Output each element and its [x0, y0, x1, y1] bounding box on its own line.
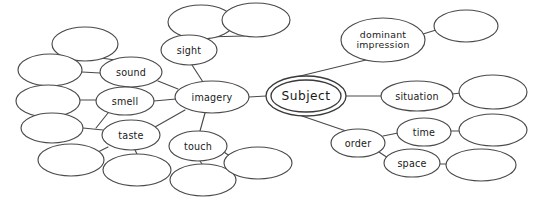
blank-node-ellipse[interactable] [224, 147, 292, 179]
node-touch[interactable]: touch [169, 131, 227, 161]
node-label-smell: smell [112, 96, 139, 107]
node-space[interactable]: space [384, 149, 440, 177]
connector-taste-to-blank-taste-1 [83, 128, 103, 130]
node-label-dominant_impression: dominantimpression [356, 28, 409, 50]
blank-node-ellipse[interactable] [459, 75, 527, 109]
node-label-imagery: imagery [192, 92, 233, 103]
connector-subject-to-imagery [249, 96, 266, 97]
blank-node-ellipse[interactable] [222, 3, 290, 37]
node-smell[interactable]: smell [96, 87, 154, 115]
node-label-order: order [345, 138, 372, 149]
node-label-line-1: dominant [360, 28, 406, 39]
connector-dominant_impression-to-blank-di-1 [423, 30, 436, 34]
connector-imagery-to-touch [200, 113, 205, 131]
node-sight[interactable]: sight [161, 35, 217, 65]
node-imagery[interactable]: imagery [175, 81, 249, 113]
node-label-touch: touch [184, 141, 212, 152]
blank-node-ellipse[interactable] [103, 154, 171, 186]
blank-node-ellipse[interactable] [16, 85, 80, 117]
node-time[interactable]: time [397, 118, 451, 146]
node-dominant_impression[interactable]: dominantimpression [341, 18, 425, 62]
blank-node-ellipse[interactable] [434, 10, 498, 42]
connector-smell-to-taste [96, 113, 108, 128]
node-label-sound: sound [116, 67, 146, 78]
connector-order-to-time [383, 133, 398, 136]
blank-node-ellipse[interactable] [18, 54, 82, 86]
node-label-taste: taste [118, 130, 143, 141]
blank-node-ellipse[interactable] [38, 144, 104, 176]
connector-taste-to-blank-taste-3 [135, 150, 137, 154]
connector-imagery-to-smell [154, 99, 176, 101]
node-label-sight: sight [177, 45, 202, 56]
node-label-time: time [413, 127, 435, 138]
center-node-label: Subject [281, 89, 330, 103]
connector-sound-to-blank-sound-2 [82, 72, 100, 73]
connector-imagery-to-sound [158, 81, 178, 89]
node-label-situation: situation [395, 91, 439, 102]
node-order[interactable]: order [331, 129, 385, 157]
blank-node-ellipse[interactable] [446, 149, 516, 181]
node-taste[interactable]: taste [102, 120, 160, 150]
node-label-line-2: impression [356, 39, 409, 50]
mind-map-diagram: imagerysightsoundsmelltastetouchdominant… [0, 0, 560, 200]
node-situation[interactable]: situation [381, 81, 453, 111]
connector-imagery-to-sight [192, 65, 203, 82]
connector-subject-to-order [302, 116, 346, 131]
node-subject[interactable]: Subject [266, 76, 346, 116]
center-node-layer: Subject [266, 76, 346, 116]
node-sound[interactable]: sound [100, 57, 162, 87]
blank-node-ellipse[interactable] [459, 114, 527, 146]
connector-subject-to-dominant_impression [296, 60, 366, 77]
mind-map-canvas: imagerysightsoundsmelltastetouchdominant… [0, 0, 560, 200]
connector-imagery-to-taste [155, 110, 185, 127]
blank-node-ellipse[interactable] [21, 113, 83, 143]
node-label-space: space [397, 158, 426, 169]
